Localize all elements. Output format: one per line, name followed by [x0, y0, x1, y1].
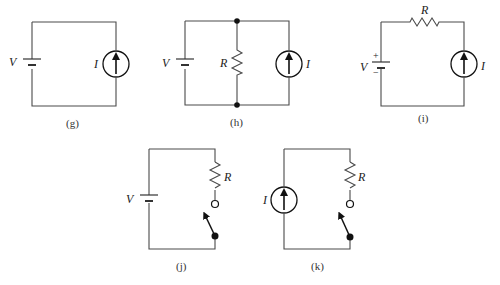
current-label: I: [93, 57, 99, 71]
wire-loop: [149, 149, 215, 249]
node-dot: [234, 102, 240, 108]
battery-icon: [176, 59, 194, 65]
switch-open-terminal: [347, 201, 354, 208]
voltage-label: V: [126, 192, 135, 206]
circuit-k: I R (k): [262, 149, 366, 273]
voltage-label: V: [162, 56, 171, 70]
caption: (h): [230, 116, 243, 129]
current-label: I: [480, 59, 486, 73]
resistor-icon: [345, 162, 355, 188]
switch-lever-icon: [205, 215, 215, 236]
battery-icon: [140, 195, 158, 201]
switch-lever-icon: [340, 215, 350, 237]
current-source-icon: [271, 187, 297, 213]
caption: (i): [418, 112, 429, 125]
switch-open-terminal: [212, 201, 219, 208]
circuit-g: V I (g): [9, 22, 129, 130]
circuit-h: V R I (h): [162, 18, 311, 129]
resistor-label: R: [420, 3, 429, 17]
caption: (k): [311, 260, 324, 273]
node-dot: [234, 18, 240, 24]
caption: (g): [66, 117, 79, 130]
voltage-label: V: [360, 60, 369, 74]
caption: (j): [176, 260, 187, 273]
circuit-i: + − V R I (i): [360, 3, 486, 125]
current-source-icon: [451, 51, 477, 77]
resistor-label: R: [223, 170, 232, 184]
current-label: I: [262, 193, 268, 207]
circuit-j: V R (j): [126, 149, 232, 273]
voltage-label: V: [9, 55, 18, 69]
battery-icon: [23, 59, 41, 65]
resistor-label: R: [357, 170, 366, 184]
resistor-icon: [210, 162, 220, 188]
plus-sign: +: [373, 50, 379, 61]
current-source-icon: [276, 51, 302, 77]
minus-sign: −: [373, 67, 379, 78]
resistor-icon: [232, 21, 242, 105]
current-label: I: [305, 57, 311, 71]
resistor-label: R: [219, 56, 228, 70]
current-source-icon: [103, 51, 129, 77]
